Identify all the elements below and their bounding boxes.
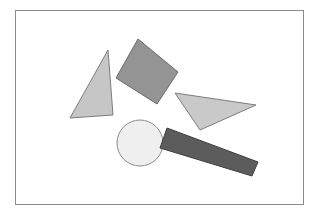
shape-canvas <box>0 0 319 215</box>
canvas-border-frame <box>16 11 304 205</box>
shapes-canvas-root <box>0 0 319 215</box>
shape-circle-center[interactable] <box>117 120 163 166</box>
